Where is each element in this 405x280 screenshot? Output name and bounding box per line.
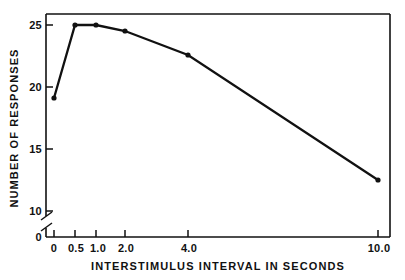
data-point-10p0 (375, 177, 380, 182)
y-tick-label-20: 20 (29, 81, 42, 93)
data-point-0p5 (72, 22, 77, 27)
data-point-0 (51, 95, 56, 100)
data-series-number-of-responses (51, 22, 380, 182)
y-axis-title: NUMBER OF RESPONSES (8, 48, 20, 207)
x-tick-label-2p0: 2.0 (118, 242, 134, 254)
plot-frame (41, 14, 390, 237)
series-line (54, 25, 378, 180)
y-axis-ticks (46, 25, 53, 211)
x-tick-label-1p0: 1.0 (90, 242, 106, 254)
line-chart-figure: 25 20 15 10 0 0 0.5 1.0 2.0 4.0 10.0 (0, 0, 405, 280)
x-axis-title: INTERSTIMULUS INTERVAL IN SECONDS (91, 260, 345, 272)
data-point-4p0 (185, 52, 190, 57)
data-point-2p0 (122, 28, 127, 33)
x-tick-label-0p5: 0.5 (68, 242, 84, 254)
y-tick-label-25: 25 (29, 19, 42, 31)
y-axis-tick-labels: 25 20 15 10 0 (29, 19, 42, 243)
x-tick-label-10p0: 10.0 (368, 242, 391, 254)
data-point-1p0 (93, 22, 98, 27)
y-tick-label-0: 0 (36, 231, 42, 243)
x-axis-ticks (54, 230, 378, 237)
y-tick-label-10: 10 (29, 205, 42, 217)
x-tick-label-0: 0 (51, 242, 57, 254)
chart-page: 25 20 15 10 0 0 0.5 1.0 2.0 4.0 10.0 (0, 0, 405, 280)
x-tick-label-4p0: 4.0 (181, 242, 197, 254)
y-tick-label-15: 15 (29, 143, 42, 155)
x-axis-tick-labels: 0 0.5 1.0 2.0 4.0 10.0 (51, 242, 391, 254)
